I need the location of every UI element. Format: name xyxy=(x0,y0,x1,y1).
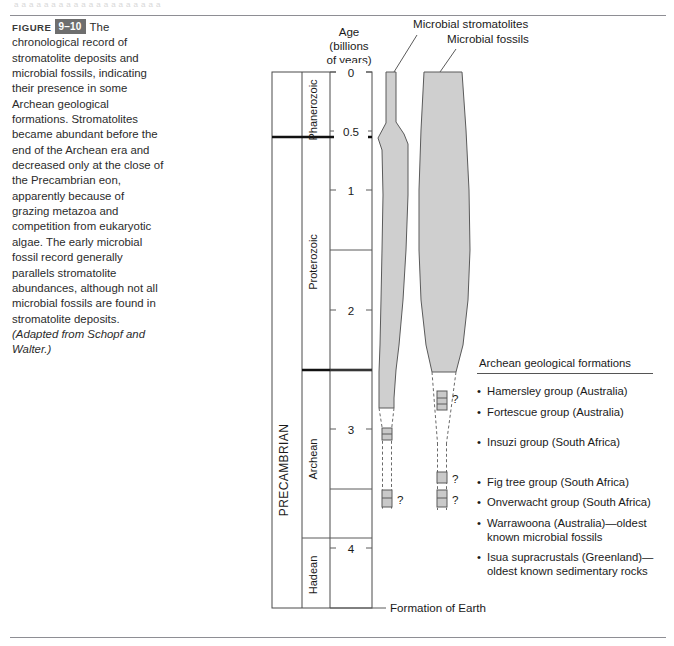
legend-divider xyxy=(477,373,653,374)
fossil-question-mark-2: ? xyxy=(452,472,459,485)
era-label-archean: Archean xyxy=(307,439,319,480)
legend-archean-formations: Archean geological formations Hamersley … xyxy=(477,357,669,578)
axis-title-line1: Age xyxy=(339,25,360,38)
tick-label-0-5: 0.5 xyxy=(343,125,359,138)
legend-item-isua-line1: Isua supracrustals (Greenland)— xyxy=(487,551,653,563)
legend-item-isua[interactable]: Isua supracrustals (Greenland)— oldest k… xyxy=(477,551,669,578)
formation-of-earth-label: Formation of Earth xyxy=(390,601,486,614)
era-label-phanerozoic: Phanerozoic xyxy=(307,79,319,141)
tick-labels: 0 0.5 1 2 3 4 xyxy=(334,63,368,556)
era-label-hadean: Hadean xyxy=(307,556,319,595)
tick-label-1: 1 xyxy=(348,184,354,197)
era-label-proterozoic: Proterozoic xyxy=(307,234,319,290)
legend-list: Hamersley group (Australia) Fortescue gr… xyxy=(477,385,669,578)
fossil-marker-2 xyxy=(437,472,447,483)
stromatolite-question-mark: ? xyxy=(397,493,404,506)
tick-label-3: 3 xyxy=(348,423,354,436)
stromatolite-uncertainty-tail: ? xyxy=(379,408,404,510)
tick-label-0: 0 xyxy=(348,66,354,79)
band-label-stromatolites: Microbial stromatolites xyxy=(413,17,529,30)
tick-label-4: 4 xyxy=(348,542,355,555)
time-scale-frame xyxy=(272,72,372,608)
band-microbial-stromatolites xyxy=(378,72,408,408)
fossil-marker-1 xyxy=(437,391,447,410)
fossil-uncertainty-tail: ? ? ? xyxy=(432,372,459,510)
legend-item-warrawoona-line1: Warrawoona (Australia)—oldest xyxy=(487,517,647,529)
legend-item-insuzi[interactable]: Insuzi group (South Africa) xyxy=(477,436,669,450)
band-label-fossils: Microbial fossils xyxy=(447,32,529,45)
legend-item-warrawoona[interactable]: Warrawoona (Australia)—oldest known micr… xyxy=(477,517,669,544)
legend-item-warrawoona-line2: known microbial fossils xyxy=(487,531,669,545)
legend-title: Archean geological formations xyxy=(477,357,669,369)
legend-item-isua-line2: oldest known sedimentary rocks xyxy=(487,565,669,579)
band-microbial-fossils xyxy=(419,72,470,372)
axis-ticks xyxy=(330,72,372,608)
legend-item-onverwacht[interactable]: Onverwacht group (South Africa) xyxy=(477,496,669,510)
fossil-question-mark-3: ? xyxy=(452,493,459,506)
supereon-label-precambrian: PRECAMBRIAN xyxy=(277,424,291,516)
legend-item-hamersley[interactable]: Hamersley group (Australia) xyxy=(477,385,669,399)
legend-item-fig-tree[interactable]: Fig tree group (South Africa) xyxy=(477,476,669,490)
legend-item-fortescue[interactable]: Fortescue group (Australia) xyxy=(477,406,669,420)
callout-microbial-fossils: Microbial fossils xyxy=(440,32,529,72)
axis-title-line2: (billions xyxy=(329,39,369,52)
fossil-question-mark-1: ? xyxy=(452,392,459,405)
figure-page: a a a a a a a a a a a a a a a a a a a a … xyxy=(0,0,674,646)
tick-label-2: 2 xyxy=(348,304,354,317)
